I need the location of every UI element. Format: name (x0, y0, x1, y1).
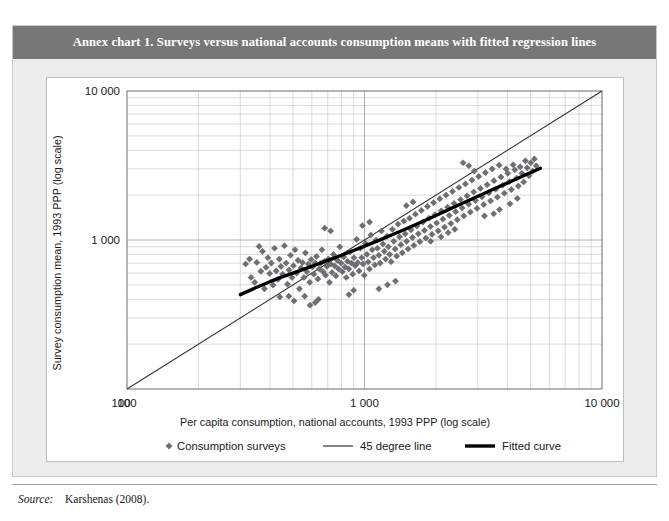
y-tick-label: 100 (111, 397, 130, 409)
x-tick-label: 10 000 (584, 397, 619, 409)
fitted-curve-line (240, 168, 540, 294)
legend-item-label: Consumption surveys (177, 440, 286, 452)
scatter-plot: 1001 00010 0001001 00010 000 Per capita … (47, 78, 623, 461)
chart-title-banner: Annex chart 1. Surveys versus national a… (13, 26, 656, 59)
x-axis-title: Per capita consumption, national account… (180, 416, 490, 428)
chart-title: Annex chart 1. Surveys versus national a… (13, 26, 656, 59)
figure-frame: Annex chart 1. Surveys versus national a… (12, 25, 657, 477)
y-tick-label: 1 000 (91, 234, 120, 246)
scatter-points (243, 156, 540, 308)
x-tick-label: 1 000 (350, 397, 379, 409)
source-label: Source: (18, 493, 53, 505)
legend-diamond-marker-icon (166, 443, 172, 449)
chart-panel: 1001 00010 0001001 00010 000 Per capita … (46, 77, 624, 462)
y-tick-label: 10 000 (85, 85, 120, 97)
source-note-bar: Source: Karshenas (2008). (12, 484, 657, 514)
chart-legend: Consumption surveys45 degree lineFitted … (166, 440, 561, 452)
y-axis-title: Survey consumption mean, 1993 PPP (log s… (51, 135, 63, 370)
source-citation: Karshenas (2008). (65, 493, 149, 505)
legend-item-label: 45 degree line (360, 440, 432, 452)
legend-item-label: Fitted curve (502, 440, 561, 452)
figure-page: Annex chart 1. Surveys versus national a… (0, 0, 669, 521)
